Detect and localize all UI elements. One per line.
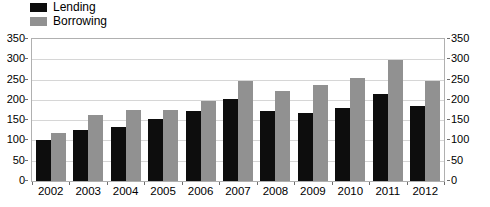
y-axis-tick-label: 50	[13, 155, 25, 166]
bar-group	[407, 39, 444, 181]
y-axis-right: 050100150200250300350	[447, 38, 477, 182]
y-axis-tick-label: 300	[7, 53, 25, 64]
x-axis-labels: 2002200320042005200620072008200920102011…	[32, 185, 444, 198]
y-axis-tickmark	[447, 58, 450, 59]
x-axis-tickmark	[444, 182, 445, 185]
legend-item-lending: Lending	[30, 1, 107, 14]
bar-borrowing-2002	[51, 133, 66, 181]
y-axis-tick-label: 100	[451, 134, 469, 145]
bar-lending-2004	[111, 127, 126, 181]
y-axis-left: 050100150200250300350	[0, 38, 28, 182]
x-axis-tick-label: 2007	[219, 185, 256, 198]
bar-lending-2002	[36, 140, 51, 181]
y-axis-tickmark	[447, 180, 450, 181]
y-axis-tick-label: 350	[451, 33, 469, 44]
bar-group	[369, 39, 406, 181]
bar-lending-2008	[260, 111, 275, 181]
bar-borrowing-2007	[238, 81, 253, 181]
x-axis-tick-label: 2012	[407, 185, 444, 198]
chart-legend: Lending Borrowing	[30, 1, 107, 28]
y-axis-tickmark	[25, 160, 28, 161]
bar-group	[294, 39, 331, 181]
y-axis-tick-label: 50	[451, 155, 463, 166]
bar-chart: Lending Borrowing 050100150200250300350 …	[0, 0, 490, 207]
bar-lending-2007	[223, 99, 238, 181]
y-axis-tick-label: 100	[7, 134, 25, 145]
y-axis-tickmark	[447, 139, 450, 140]
bar-group	[144, 39, 181, 181]
y-axis-tick-label: 250	[7, 74, 25, 85]
bar-group	[219, 39, 256, 181]
y-axis-tick-label: 350	[7, 33, 25, 44]
y-axis-tickmark	[447, 79, 450, 80]
legend-swatch-borrowing-icon	[30, 17, 47, 26]
bar-lending-2005	[148, 119, 163, 181]
bar-lending-2012	[410, 106, 425, 181]
bar-group	[107, 39, 144, 181]
bar-lending-2009	[298, 113, 313, 181]
bar-borrowing-2005	[163, 110, 178, 181]
bar-lending-2011	[373, 94, 388, 181]
legend-swatch-lending-icon	[30, 3, 47, 12]
y-axis-tickmark	[25, 99, 28, 100]
bar-borrowing-2012	[425, 81, 440, 181]
bar-lending-2003	[73, 130, 88, 181]
y-axis-tickmark	[25, 58, 28, 59]
y-axis-tick-label: 150	[451, 114, 469, 125]
y-axis-tick-label: 250	[451, 74, 469, 85]
bar-borrowing-2006	[201, 101, 216, 181]
y-axis-tickmark	[447, 160, 450, 161]
bars-layer	[32, 39, 444, 181]
x-axis-tick-label: 2011	[369, 185, 406, 198]
y-axis-tickmark	[447, 119, 450, 120]
bar-borrowing-2003	[88, 115, 103, 181]
bar-lending-2010	[335, 108, 350, 181]
legend-label-borrowing: Borrowing	[53, 15, 107, 28]
y-axis-tick-label: 200	[451, 94, 469, 105]
bar-borrowing-2008	[275, 91, 290, 181]
x-axis-tick-label: 2004	[107, 185, 144, 198]
y-axis-tick-label: 150	[7, 114, 25, 125]
x-axis-tick-label: 2005	[144, 185, 181, 198]
y-axis-tickmark	[447, 99, 450, 100]
y-axis-tick-label: 300	[451, 53, 469, 64]
y-axis-tickmark	[25, 38, 28, 39]
y-axis-tick-label: 0	[451, 175, 457, 186]
bar-group	[69, 39, 106, 181]
bar-borrowing-2009	[313, 85, 328, 181]
bar-borrowing-2004	[126, 110, 141, 181]
y-axis-tickmark	[25, 139, 28, 140]
x-axis-tick-label: 2010	[332, 185, 369, 198]
x-axis-tick-label: 2009	[294, 185, 331, 198]
y-axis-tickmark	[25, 79, 28, 80]
y-axis-tick-label: 200	[7, 94, 25, 105]
y-axis-tickmark	[25, 119, 28, 120]
y-axis-tickmark	[25, 180, 28, 181]
x-axis-tick-label: 2002	[32, 185, 69, 198]
x-axis-tick-label: 2008	[257, 185, 294, 198]
bar-borrowing-2011	[388, 60, 403, 181]
bar-lending-2006	[186, 111, 201, 181]
bar-borrowing-2010	[350, 78, 365, 181]
bar-group	[332, 39, 369, 181]
bar-group	[32, 39, 69, 181]
x-axis-tick-label: 2003	[69, 185, 106, 198]
bar-group	[182, 39, 219, 181]
legend-item-borrowing: Borrowing	[30, 15, 107, 28]
y-axis-tickmark	[447, 38, 450, 39]
legend-label-lending: Lending	[53, 1, 96, 14]
x-axis-tick-label: 2006	[182, 185, 219, 198]
bar-group	[257, 39, 294, 181]
